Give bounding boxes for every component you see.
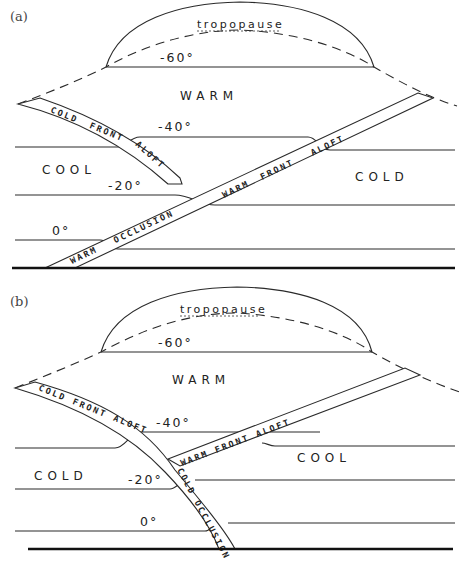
stratosphere-dome <box>106 2 374 67</box>
occlusion-diagram: (a) -60° tropopause WARM -40° -20° 0° CO… <box>0 0 467 564</box>
region-warm-b: WARM <box>172 373 230 387</box>
isotherm-label-minus40: -40° <box>158 119 193 134</box>
isotherm-label-0: 0° <box>52 223 70 238</box>
isotherm-label-minus60: -60° <box>160 50 195 65</box>
warm-front-aloft-label-b: WARM FRONT ALOFT <box>179 417 292 468</box>
cold-front-aloft-band-b <box>15 382 235 549</box>
tropopause-label: tropopause <box>197 18 284 31</box>
stratosphere-dome-b <box>101 287 372 352</box>
panel-b: (b) -60° tropopause WARM -40° -20° 0° CO… <box>10 287 460 561</box>
region-cool-b: COOL <box>297 451 351 465</box>
isotherm-0-b <box>15 523 455 531</box>
isotherm-label-0-b: 0° <box>140 514 158 529</box>
isotherm-label-minus60-b: -60° <box>158 335 193 350</box>
isotherm-minus40 <box>15 137 455 150</box>
panel-label-a: (a) <box>10 9 28 24</box>
region-cold-b: COLD <box>34 469 88 483</box>
isotherm-minus20 <box>15 195 455 205</box>
isotherm-minus40-b-right <box>262 443 455 446</box>
isotherm-0 <box>15 240 455 249</box>
isotherm-label-minus20: -20° <box>108 178 143 193</box>
warm-occlusion-label-2: OCCLUSION <box>112 208 176 245</box>
region-cold-a: COLD <box>355 170 409 184</box>
isotherm-label-minus20-b: -20° <box>128 472 163 487</box>
tropopause-label-b: tropopause <box>180 303 267 316</box>
isotherm-label-minus40-b: -40° <box>156 415 191 430</box>
panel-label-b: (b) <box>10 294 28 309</box>
cold-front-aloft-label-b: COLD FRONT ALOFT <box>37 383 149 436</box>
region-cool-a: COOL <box>42 163 96 177</box>
region-warm-a: WARM <box>180 89 238 103</box>
panel-a: (a) -60° tropopause WARM -40° -20° 0° CO… <box>10 2 457 268</box>
